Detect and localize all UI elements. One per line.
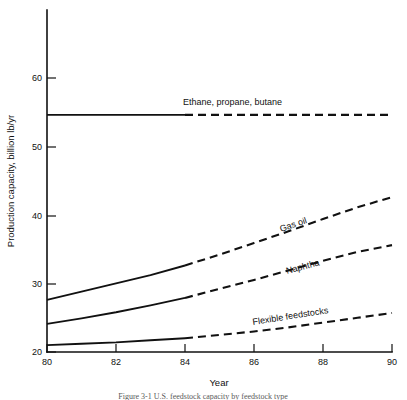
y-tick-label-50: 50: [32, 142, 42, 152]
figure-container: 60 50 40 30 20 80 82 84 86 88 90 Product…: [0, 0, 407, 400]
x-tick-labels: 80 82 84 86 88 90: [42, 357, 397, 367]
series-naphtha: [47, 245, 392, 324]
y-tick-marks: [47, 78, 56, 352]
series-label-gas-oil: Gas oil: [278, 215, 308, 234]
y-tick-label-60: 60: [32, 73, 42, 83]
figure-caption: Figure 3-1 U.S. feedstock capacity by fe…: [118, 392, 288, 400]
x-tick-label-88: 88: [318, 357, 328, 367]
x-tick-marks: [47, 344, 392, 352]
series-label-naphtha: Naphtha: [285, 257, 320, 275]
x-tick-label-90: 90: [387, 357, 397, 367]
series-gas-oil: [47, 197, 392, 300]
y-tick-label-40: 40: [32, 211, 42, 221]
x-tick-label-84: 84: [180, 357, 190, 367]
x-tick-label-86: 86: [249, 357, 259, 367]
y-tick-label-20: 20: [32, 347, 42, 357]
naphtha-line-historical: [47, 298, 185, 324]
series-label-ethane: Ethane, propane, butane: [183, 97, 282, 107]
y-axis-title: Production capacity, billion lb/yr: [5, 115, 16, 247]
axes-group: [47, 10, 392, 352]
x-tick-label-82: 82: [111, 357, 121, 367]
x-axis-title: Year: [209, 377, 228, 388]
y-tick-label-30: 30: [32, 279, 42, 289]
y-tick-labels: 60 50 40 30 20: [32, 73, 42, 357]
line-chart: 60 50 40 30 20 80 82 84 86 88 90 Product…: [0, 0, 407, 400]
x-tick-label-80: 80: [42, 357, 52, 367]
gas-oil-line-historical: [47, 266, 185, 300]
series-flexible-feedstocks: [47, 313, 392, 345]
